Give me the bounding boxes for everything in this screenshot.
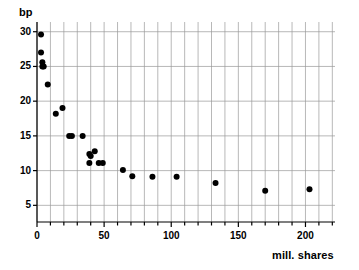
x-tick-label: 150 (220, 230, 256, 241)
y-axis-title: bp (19, 6, 33, 18)
axis-frame-and-ticks (37, 22, 335, 222)
y-tick-label: 20 (7, 95, 31, 106)
x-tick-label: 0 (19, 230, 55, 241)
y-tick-label: 5 (7, 199, 31, 210)
scatter-chart-figure: bp mill. shares 51015202530 050100150200 (0, 0, 359, 270)
x-tick-label: 50 (86, 230, 122, 241)
x-tick-label: 100 (153, 230, 189, 241)
x-axis-title: mill. shares (272, 249, 334, 261)
plot-area (37, 22, 335, 222)
y-tick-label: 30 (7, 26, 31, 37)
y-tick-label: 25 (7, 60, 31, 71)
y-tick-label: 10 (7, 165, 31, 176)
y-tick-label: 15 (7, 130, 31, 141)
x-tick-label: 200 (287, 230, 323, 241)
